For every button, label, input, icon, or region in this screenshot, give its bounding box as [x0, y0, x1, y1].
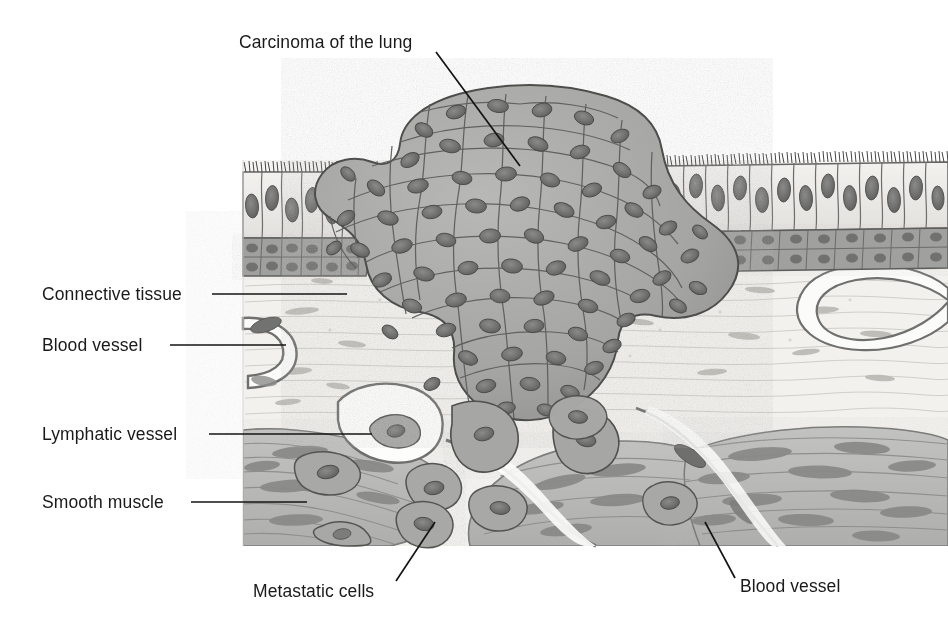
metastatic-cell: [469, 486, 527, 531]
metastatic-cell: [549, 396, 607, 439]
lung-carcinoma-diagram: Carcinoma of the lung Connective tissue …: [0, 0, 948, 625]
label-smooth-muscle: Smooth muscle: [42, 492, 164, 512]
label-metastatic-cells: Metastatic cells: [253, 581, 374, 601]
metastatic-cell: [643, 482, 697, 525]
label-blood-vessel-left: Blood vessel: [42, 335, 142, 355]
label-blood-vessel-right: Blood vessel: [740, 576, 840, 596]
label-lymphatic-vessel: Lymphatic vessel: [42, 424, 177, 444]
label-connective-tissue: Connective tissue: [42, 284, 182, 304]
label-carcinoma-of-the-lung: Carcinoma of the lung: [239, 32, 412, 52]
